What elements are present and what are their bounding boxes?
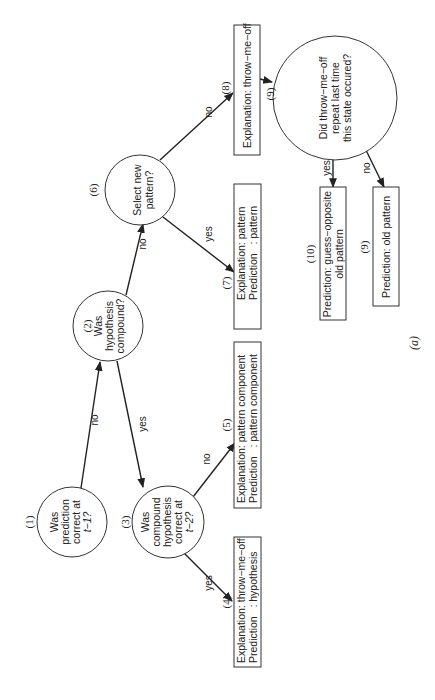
node-5-pattern-component: (5) Explanation: pattern component Predi… [220,342,261,508]
node-9b-old-pattern: (9) Prediction: old pattern [358,187,399,306]
node-9-line-3: this state occured? [341,54,353,142]
edge-label-9-10: yes [321,160,332,176]
node-6-line-1: Select new [131,164,143,216]
edge-6-to-8 [160,93,233,160]
node-1-line-4: t−1? [81,511,93,532]
edge-8-to-9 [260,79,272,82]
node-7-pattern: (7) Explanation: pattern Prediction : pa… [220,184,261,329]
node-7-number: (7) [220,276,233,289]
decision-tree-diagram: no yes no yes no yes no yes no (1) Was p… [0,0,435,700]
edge-6-to-7 [163,217,234,272]
edge-label-6-8: no [203,106,214,118]
node-4-line-1: Explanation: throw−me−off [235,538,247,663]
edge-label-9-9b: no [361,162,372,174]
node-10-number: (10) [304,245,317,264]
node-9b-number: (9) [358,240,371,253]
node-5-line-1: Explanation: pattern component [235,355,247,503]
edge-2-to-6 [126,224,143,295]
node-1-number: (1) [23,515,36,528]
edge-3-to-5 [193,443,235,497]
edge-label-3-5: no [201,453,212,465]
node-5-line-2: Prediction : pattern component [247,354,259,503]
node-8-throw-me-off: (8) Explanation: throw−me−off [219,23,260,155]
node-9-number: (9) [264,87,277,100]
node-2-line-3: compound? [114,298,126,353]
node-10-line-2: old pattern [333,229,345,279]
node-7-line-2: Prediction : pattern [247,206,259,300]
node-4-line-2: Prediction : hypothesis [247,552,259,663]
node-6-number: (6) [87,183,100,196]
edge-label-2-3: yes [137,416,148,432]
edge-label-3-4: yes [203,575,214,591]
edge-label-6-7: yes [203,226,214,242]
node-9-throw-me-off-repeat: (9) Did throw−me−off repeat last time th… [264,36,397,160]
node-6-line-2: pattern? [143,171,155,210]
figure-caption: (a) [407,336,421,350]
node-1-prediction-correct: (1) Was prediction correct at t−1? [23,487,107,557]
node-9b-line-1: Prediction: old pattern [380,196,392,298]
node-7-line-1: Explanation: pattern [235,206,247,300]
node-9-line-2: repeat last time [329,62,341,134]
node-3-compound-correct: (3) Was compound hypothesis correct at t… [119,486,204,558]
node-4-number: (4) [220,595,233,608]
node-4-throw-me-off-hypothesis: (4) Explanation: throw−me−off Prediction… [220,537,261,667]
node-8-number: (8) [219,81,232,94]
node-9-line-1: Did throw−me−off [317,57,329,140]
node-10-guess-opposite: (10) Prediction: guess−opposite old patt… [304,187,346,320]
node-8-line-1: Explanation: throw−me−off [241,23,253,148]
node-3-line-5: t−2? [183,511,195,532]
node-6-select-new-pattern: (6) Select new pattern? [87,155,175,225]
node-2-hypothesis-compound: (2) Was hypothesis compound? [73,291,143,361]
node-5-number: (5) [220,418,233,431]
node-3-number: (3) [119,515,132,528]
node-10-line-1: Prediction: guess−opposite [321,191,333,318]
edge-label-1-2: no [89,414,100,426]
edge-label-2-6: no [137,238,148,250]
